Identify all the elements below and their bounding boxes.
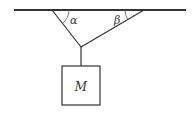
alpha-label: α — [70, 14, 78, 27]
mass-label: M — [74, 80, 88, 94]
alpha-arc — [63, 10, 70, 23]
right-rope — [81, 10, 144, 47]
beta-label: β — [113, 14, 120, 27]
diagram-canvas: α β M — [0, 0, 193, 113]
beta-arc — [125, 10, 128, 20]
